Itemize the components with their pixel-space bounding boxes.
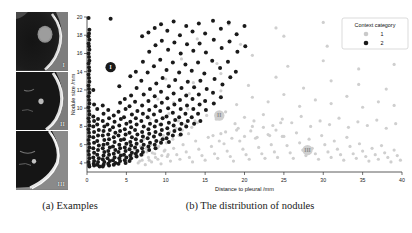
caption-a: (a) Examples xyxy=(10,200,130,211)
x-tick-label: 35 xyxy=(360,177,366,183)
y-tick-label: 12 xyxy=(77,87,83,93)
y-tick-label: 18 xyxy=(77,32,83,38)
legend-title: Context category xyxy=(355,22,396,28)
ct-slice-2: II xyxy=(16,72,68,131)
scatter-plot-svg: 0510152025303540468101214161820Distance … xyxy=(70,8,412,196)
ct-slice-1: I xyxy=(16,12,68,71)
x-tick-label: 30 xyxy=(320,177,326,183)
caption-b: (b) The distribution of nodules xyxy=(150,200,350,211)
annotation-I: I xyxy=(105,62,115,72)
y-tick-label: 14 xyxy=(77,69,83,75)
y-tick-label: 6 xyxy=(80,142,83,148)
y-tick-label: 4 xyxy=(80,160,83,166)
ct-slice-1-image xyxy=(16,12,68,71)
y-tick-label: 10 xyxy=(77,105,83,111)
annotation-label: II xyxy=(217,112,221,118)
scatter-plot: 0510152025303540468101214161820Distance … xyxy=(70,8,412,196)
x-tick-label: 20 xyxy=(242,177,248,183)
ct-slice-3-label: III xyxy=(57,180,65,188)
y-tick-label: 20 xyxy=(77,14,83,20)
legend-item-label: 2 xyxy=(381,40,384,46)
x-tick-label: 5 xyxy=(125,177,128,183)
y-axis-title: Nodule size /mm xyxy=(70,73,76,115)
series-2 xyxy=(87,16,248,169)
annotation-label: I xyxy=(110,64,112,70)
legend-marker-icon xyxy=(364,41,369,46)
legend-item-label: 1 xyxy=(381,31,384,37)
ct-slice-1-label: I xyxy=(62,61,65,69)
legend-marker-icon xyxy=(364,32,369,37)
y-tick-label: 8 xyxy=(80,123,83,129)
figure-root: I II III xyxy=(0,0,412,233)
x-tick-label: 40 xyxy=(399,177,405,183)
annotation-label: III xyxy=(304,147,311,153)
x-tick-label: 15 xyxy=(202,177,208,183)
x-axis-title: Distance to pleural /mm xyxy=(215,186,274,192)
annotation-III: III xyxy=(302,145,312,155)
x-tick-label: 25 xyxy=(281,177,287,183)
annotation-II: II xyxy=(214,110,224,120)
x-tick-label: 10 xyxy=(163,177,169,183)
ct-slice-2-label: II xyxy=(60,120,65,128)
ct-slice-3: III xyxy=(16,131,68,190)
ct-examples-panel: I II III xyxy=(16,12,68,190)
y-tick-label: 16 xyxy=(77,50,83,56)
x-tick-label: 0 xyxy=(86,177,89,183)
legend-layer[interactable]: Context category12 xyxy=(342,18,408,49)
